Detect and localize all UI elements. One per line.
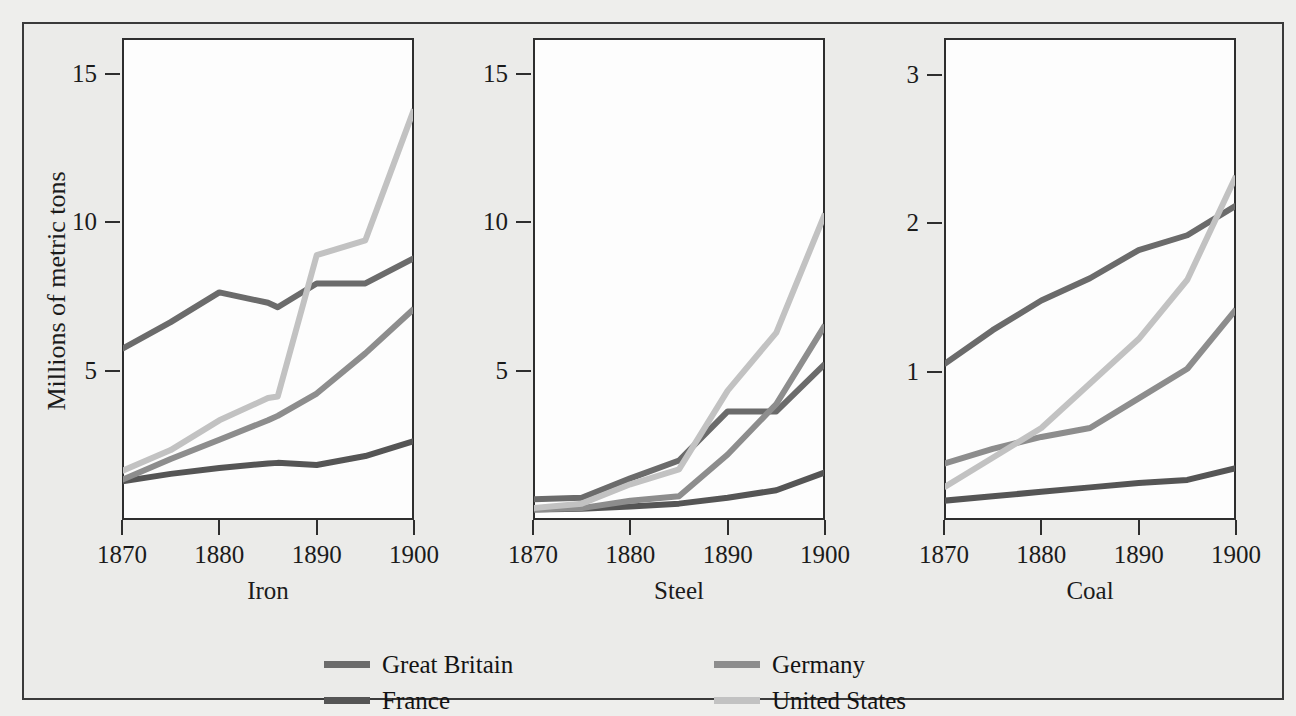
legend-swatch: [324, 661, 370, 668]
series-line-great-britain: [944, 206, 1236, 365]
legend-label: Germany: [772, 652, 865, 677]
legend-label: United States: [772, 688, 906, 713]
legend-swatch: [714, 697, 760, 704]
legend-label: Great Britain: [382, 652, 513, 677]
legend-item-united-states[interactable]: United States: [714, 688, 906, 713]
series-line-france: [944, 468, 1236, 501]
figure-outer-frame: Millions of metric tons 5101518701880189…: [22, 22, 1284, 700]
legend-swatch: [714, 661, 760, 668]
legend-swatch: [324, 697, 370, 704]
legend-item-france[interactable]: France: [324, 688, 450, 713]
chart-legend: Great BritainFranceGermanyUnited States: [324, 652, 1024, 716]
figure-canvas: Millions of metric tons 5101518701880189…: [0, 0, 1296, 716]
legend-item-germany[interactable]: Germany: [714, 652, 865, 677]
legend-label: France: [382, 688, 450, 713]
series-layer: [24, 24, 1286, 584]
legend-item-great-britain[interactable]: Great Britain: [324, 652, 513, 677]
